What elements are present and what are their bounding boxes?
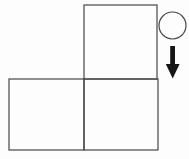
ball-circle-icon (159, 12, 186, 39)
l-shape-squares-diagram (0, 0, 189, 159)
down-arrow-shaft (170, 46, 175, 66)
diagram-canvas (0, 0, 189, 159)
